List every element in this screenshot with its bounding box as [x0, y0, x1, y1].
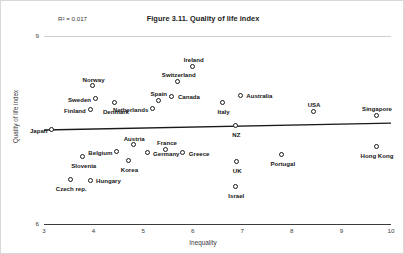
x-tick-label-3: 3 — [36, 227, 52, 234]
data-point-label: Singapore — [362, 105, 392, 112]
x-tick-label-7: 7 — [234, 227, 250, 234]
data-point-label: France — [157, 139, 177, 146]
x-tick-label-5: 5 — [135, 227, 151, 234]
data-point-label: Australia — [246, 92, 272, 99]
x-tick-label-8: 8 — [284, 227, 300, 234]
data-point-label: Greece — [189, 150, 210, 157]
data-point-label: UK — [233, 167, 242, 174]
data-point-label: Italy — [217, 108, 229, 115]
data-point-label: Belgium — [88, 149, 112, 156]
x-tick-label-9: 9 — [333, 227, 349, 234]
data-point[interactable] — [156, 98, 161, 103]
data-point-label: Czech rep. — [56, 185, 87, 192]
x-axis-title: Inequality — [1, 239, 404, 246]
data-point-label: Hungary — [96, 177, 121, 184]
data-point-label: Canada — [178, 93, 200, 100]
data-point-label: Japan — [30, 127, 48, 134]
data-point[interactable] — [145, 150, 150, 155]
y-tick-label-6: 6 — [25, 220, 39, 227]
data-point[interactable] — [233, 123, 238, 128]
data-point-label: Finland — [64, 107, 86, 114]
data-point[interactable] — [112, 100, 117, 105]
data-point-label: Switzerland — [162, 71, 196, 78]
data-point[interactable] — [114, 149, 119, 154]
data-point-label: Spain — [151, 90, 168, 97]
x-tick-label-6: 6 — [185, 227, 201, 234]
data-point[interactable] — [374, 113, 379, 118]
y-axis-title: Quality of life index — [12, 65, 19, 169]
data-point[interactable] — [68, 177, 73, 182]
figure-container: R² = 0.017 Figure 3.11. Quality of life … — [0, 0, 404, 254]
data-point[interactable] — [311, 109, 316, 114]
x-tick-label-4: 4 — [86, 227, 102, 234]
data-point[interactable] — [131, 142, 136, 147]
plot-area: JapanFinlandSwedenNorwayDenmarkSloveniaC… — [44, 36, 391, 224]
chart-title: Figure 3.11. Quality of life index — [1, 14, 404, 23]
data-point-label: Norway — [83, 76, 105, 83]
data-point-label: NZ — [232, 131, 240, 138]
data-point-label: Sweden — [68, 96, 91, 103]
data-point[interactable] — [88, 107, 93, 112]
data-point-label: Austria — [124, 135, 145, 142]
x-axis-line — [44, 224, 391, 225]
data-point[interactable] — [374, 144, 379, 149]
data-point-label: Slovenia — [71, 162, 96, 169]
y-tick-label-9: 9 — [25, 32, 39, 39]
data-point[interactable] — [126, 158, 131, 163]
data-point-label: Korea — [121, 166, 138, 173]
data-point-label: Ireland — [184, 56, 204, 63]
data-point[interactable] — [233, 184, 238, 189]
data-point-label: Hong Kong — [361, 152, 394, 159]
data-point[interactable] — [88, 178, 93, 183]
data-point-label: USA — [308, 101, 321, 108]
trendline — [44, 36, 391, 224]
data-point-label: Israel — [228, 192, 244, 199]
data-point-label: Portugal — [270, 160, 295, 167]
data-point[interactable] — [238, 93, 243, 98]
data-point[interactable] — [234, 159, 239, 164]
x-tick-label-10: 10 — [383, 227, 399, 234]
data-point-label: Netherlands — [113, 106, 148, 113]
